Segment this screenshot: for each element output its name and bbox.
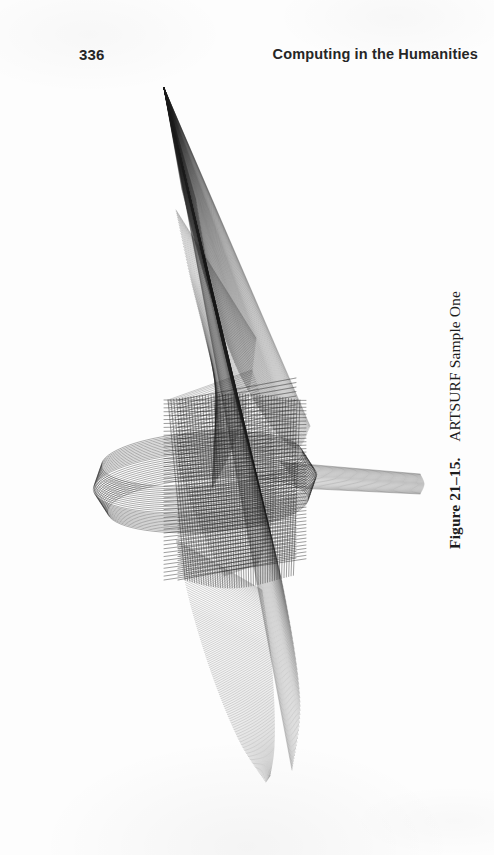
page-number: 336: [79, 46, 105, 63]
plot-line-layer: [91, 88, 424, 782]
figure-artsurf: [0, 70, 430, 790]
figure-caption: Figure 21–15. ARTSURF Sample One: [446, 291, 464, 549]
figure-caption-separator: [446, 442, 463, 458]
running-head-title: Computing in the Humanities: [273, 46, 478, 62]
book-page: 336 Computing in the Humanities Figure 2…: [0, 0, 494, 855]
figure-caption-label: Figure 21–15.: [446, 457, 463, 548]
figure-caption-text: ARTSURF Sample One: [446, 291, 463, 442]
running-head: 336 Computing in the Humanities: [0, 46, 494, 70]
artsurf-wireframe-plot: [0, 70, 430, 790]
